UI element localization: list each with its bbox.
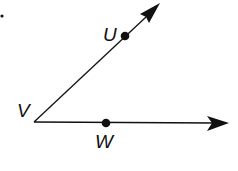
- point-w: [102, 119, 111, 128]
- label-w: W: [95, 131, 115, 152]
- stray-dot: [0, 14, 3, 17]
- point-u: [121, 32, 130, 41]
- ray-vu: [34, 17, 146, 122]
- angle-diagram: V U W: [0, 0, 238, 171]
- label-v: V: [17, 100, 32, 121]
- diagram-canvas: V U W: [0, 0, 238, 171]
- ray-vw: [34, 122, 214, 123]
- label-u: U: [103, 24, 117, 45]
